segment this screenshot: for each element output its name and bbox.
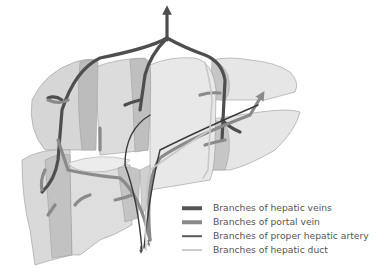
legend-label: Branches of portal vein — [213, 215, 320, 229]
legend-swatch-proper-hepatic-artery — [182, 235, 202, 237]
legend-label: Branches of proper hepatic artery — [213, 229, 369, 243]
legend-label: Branches of hepatic duct — [213, 243, 328, 257]
legend-item-hepatic-veins: Branches of hepatic veins — [182, 201, 372, 215]
legend-swatch-hepatic-duct — [182, 250, 202, 251]
legend-item-portal-vein: Branches of portal vein — [182, 215, 372, 229]
liver-segment-IV — [150, 58, 216, 190]
legend-item-proper-hepatic-artery: Branches of proper hepatic artery — [182, 229, 372, 243]
legend: Branches of hepatic veins Branches of po… — [182, 201, 372, 257]
legend-swatch-hepatic-veins — [182, 206, 202, 210]
legend-label: Branches of hepatic veins — [213, 201, 332, 215]
legend-item-hepatic-duct: Branches of hepatic duct — [182, 243, 372, 257]
legend-swatch-portal-vein — [182, 220, 202, 224]
